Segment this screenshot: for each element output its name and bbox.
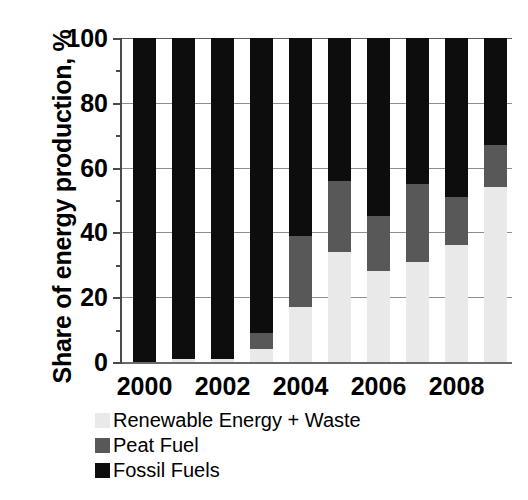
bar-segment-2006-peat-fuel[interactable] (367, 216, 390, 271)
plot-area: 02040608010020002002200420062008 (120, 38, 512, 364)
y-tick-label-0: 0 (94, 348, 108, 377)
y-tick-major-40 (113, 232, 122, 234)
y-tick-label-40: 40 (80, 218, 108, 247)
legend-item-peat-fuel[interactable]: Peat Fuel (95, 433, 361, 457)
bar-2001[interactable] (172, 38, 195, 362)
legend-swatch-icon (95, 438, 110, 453)
bar-segment-2004-renewable-energy-waste[interactable] (289, 307, 312, 362)
bar-segment-2007-fossil-fuels[interactable] (406, 38, 429, 184)
bar-segment-2009-fossil-fuels[interactable] (484, 38, 507, 145)
bar-2009[interactable] (484, 38, 507, 362)
y-tick-label-60: 60 (80, 153, 108, 182)
bar-2004[interactable] (289, 38, 312, 362)
bar-segment-2008-renewable-energy-waste[interactable] (445, 245, 468, 362)
bar-segment-2005-renewable-energy-waste[interactable] (328, 252, 351, 362)
y-tick-major-60 (113, 168, 122, 170)
y-tick-minor-30 (116, 265, 122, 267)
y-tick-major-80 (113, 103, 122, 105)
chart-figure: Share of energy production, % 0204060801… (0, 0, 528, 500)
bar-segment-2007-peat-fuel[interactable] (406, 184, 429, 262)
bar-2008[interactable] (445, 38, 468, 362)
x-tick-label-2000: 2000 (117, 372, 173, 401)
bar-2003[interactable] (250, 38, 273, 362)
bar-segment-2005-fossil-fuels[interactable] (328, 38, 351, 181)
y-tick-major-100 (113, 38, 122, 40)
bar-segment-2009-peat-fuel[interactable] (484, 145, 507, 187)
bar-segment-2005-peat-fuel[interactable] (328, 181, 351, 252)
bar-segment-2002-fossil-fuels[interactable] (211, 38, 234, 359)
y-tick-label-80: 80 (80, 88, 108, 117)
legend-label: Renewable Energy + Waste (113, 410, 361, 430)
bar-segment-2004-fossil-fuels[interactable] (289, 38, 312, 236)
y-tick-minor-10 (116, 330, 122, 332)
y-tick-minor-90 (116, 70, 122, 72)
y-tick-major-20 (113, 297, 122, 299)
bar-segment-2002-renewable-energy-waste[interactable] (211, 359, 234, 362)
bar-segment-2001-fossil-fuels[interactable] (172, 38, 195, 359)
bar-segment-2000-fossil-fuels[interactable] (133, 38, 156, 362)
chart-legend: Renewable Energy + WastePeat FuelFossil … (95, 408, 361, 482)
legend-swatch-icon (95, 413, 110, 428)
bar-segment-2001-renewable-energy-waste[interactable] (172, 359, 195, 362)
legend-label: Peat Fuel (113, 435, 199, 455)
y-tick-label-100: 100 (66, 24, 108, 53)
y-tick-minor-50 (116, 200, 122, 202)
bar-segment-2003-fossil-fuels[interactable] (250, 38, 273, 333)
x-tick-label-2004: 2004 (273, 372, 329, 401)
bar-segment-2008-peat-fuel[interactable] (445, 197, 468, 246)
bar-2006[interactable] (367, 38, 390, 362)
y-axis-title: Share of energy production, % (48, 17, 77, 397)
bar-segment-2009-renewable-energy-waste[interactable] (484, 187, 507, 362)
y-tick-minor-70 (116, 135, 122, 137)
legend-item-renewable-energy-waste[interactable]: Renewable Energy + Waste (95, 408, 361, 432)
bar-2000[interactable] (133, 38, 156, 362)
x-tick-label-2002: 2002 (195, 372, 251, 401)
x-tick-label-2006: 2006 (351, 372, 407, 401)
bar-segment-2008-fossil-fuels[interactable] (445, 38, 468, 197)
bar-2002[interactable] (211, 38, 234, 362)
legend-item-fossil-fuels[interactable]: Fossil Fuels (95, 458, 361, 482)
bar-segment-2004-peat-fuel[interactable] (289, 236, 312, 307)
x-tick-label-2008: 2008 (429, 372, 485, 401)
legend-swatch-icon (95, 463, 110, 478)
bar-segment-2006-renewable-energy-waste[interactable] (367, 271, 390, 362)
bar-2005[interactable] (328, 38, 351, 362)
bar-segment-2003-peat-fuel[interactable] (250, 333, 273, 349)
bar-2007[interactable] (406, 38, 429, 362)
bar-segment-2006-fossil-fuels[interactable] (367, 38, 390, 216)
y-tick-label-20: 20 (80, 283, 108, 312)
legend-label: Fossil Fuels (113, 460, 220, 480)
bar-segment-2007-renewable-energy-waste[interactable] (406, 262, 429, 362)
bar-segment-2003-renewable-energy-waste[interactable] (250, 349, 273, 362)
y-tick-major-0 (113, 362, 122, 364)
